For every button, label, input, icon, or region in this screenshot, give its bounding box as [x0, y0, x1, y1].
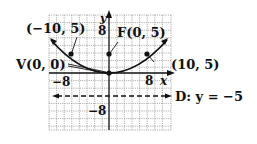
x-axis-label: x — [159, 74, 168, 88]
parabola-left-arrow-icon — [50, 38, 57, 45]
x-tick-negative: −8 — [52, 75, 70, 89]
focus-label: F(0, 5) — [117, 25, 166, 40]
left-point-leader — [72, 37, 77, 52]
x-tick-positive: 8 — [145, 74, 153, 88]
directrix-left-arrow-icon — [52, 94, 59, 99]
directrix — [52, 94, 172, 99]
left-point-label: (−10, 5) — [26, 21, 85, 36]
left-point — [68, 51, 73, 56]
vertex-point — [106, 70, 111, 75]
y-tick-negative: −8 — [88, 104, 106, 118]
y-axis-arrow-icon — [106, 10, 112, 18]
y-tick-positive: 8 — [98, 24, 106, 38]
directrix-label: D: y = −5 — [175, 89, 243, 104]
right-point-label: (10, 5) — [171, 57, 220, 72]
vertex-label: V(0, 0) — [15, 57, 66, 72]
parabola-diagram: (−10, 5) V(0, 0) F(0, 5) (10, 5) D: y = … — [0, 0, 257, 144]
